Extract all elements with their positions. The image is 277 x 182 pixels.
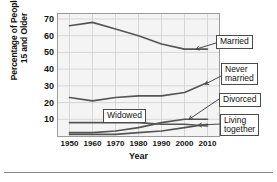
callout-divorced-label: Divorced <box>223 95 257 105</box>
callout-living-together: Living together <box>220 114 259 136</box>
x-tick-label: 2010 <box>199 139 217 148</box>
y-tick-label: 70 <box>44 15 54 24</box>
y-axis-title: Percentage of People 15 and Older <box>9 0 29 103</box>
x-tick-label: 1960 <box>84 139 102 148</box>
y-tick-label: 40 <box>44 65 54 74</box>
chart-figure: Percentage of People 15 and Older 102030… <box>0 0 277 182</box>
x-tick-label: 1950 <box>61 139 79 148</box>
y-axis-title-line2: 15 and Older <box>19 0 29 103</box>
bottom-divider <box>4 172 273 173</box>
x-axis-title: Year <box>57 151 220 161</box>
x-tick-label: 2000 <box>176 139 194 148</box>
y-tick-label: 50 <box>44 48 54 57</box>
x-tick-label: 1970 <box>107 139 125 148</box>
y-tick-label: 30 <box>44 81 54 90</box>
y-tick-label: 60 <box>44 31 54 40</box>
x-tick-label: 1990 <box>153 139 171 148</box>
callout-divorced: Divorced <box>219 93 261 107</box>
y-axis-tick-labels: 10203040506070 <box>31 0 54 182</box>
y-tick-label: 20 <box>44 98 54 107</box>
callout-widowed: Widowed <box>103 109 146 123</box>
x-tick-label: 1980 <box>130 139 148 148</box>
y-tick-label: 10 <box>44 115 54 124</box>
callout-never-married-line2: married <box>225 74 254 83</box>
callout-married-label: Married <box>220 37 249 47</box>
callout-widowed-label: Widowed <box>107 111 142 121</box>
y-axis-title-line1: Percentage of People <box>9 0 19 80</box>
callout-never-married: Never married <box>221 63 258 85</box>
callout-living-together-line2: together <box>224 125 255 134</box>
callout-married: Married <box>216 35 253 49</box>
x-axis-tick-labels: 1950196019701980199020002010 <box>0 139 277 151</box>
